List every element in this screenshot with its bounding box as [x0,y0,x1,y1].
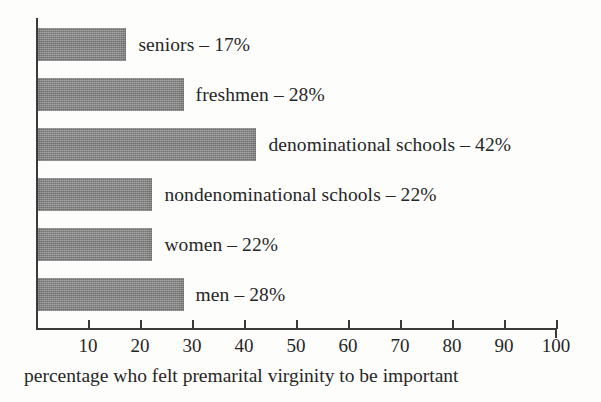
x-axis-tick-80 [452,320,454,329]
plot-area: seniors – 17% freshmen – 28% denominatio… [0,0,601,340]
x-axis-tick-60 [348,320,350,329]
x-axis-tick-label-100: 100 [542,336,571,355]
x-axis-tick-40 [244,320,246,329]
x-axis-tick-label-20: 20 [131,336,150,355]
bar-nondenominational-schools [38,178,152,211]
x-axis-tick-label-50: 50 [287,336,306,355]
bar-label-men: men – 28% [184,285,286,305]
x-axis-tick-100 [556,320,558,329]
x-axis-tick-70 [400,320,402,329]
x-axis-tick-50 [296,320,298,329]
bar-row-denominational-schools: denominational schools – 42% [38,128,511,161]
chart-caption: percentage who felt premarital virginity… [24,366,458,386]
bar-label-seniors: seniors – 17% [126,35,250,55]
bar-row-men: men – 28% [38,278,285,311]
x-axis-tick-label-60: 60 [339,336,358,355]
x-axis-tick-label-70: 70 [391,336,410,355]
bar-label-denominational-schools: denominational schools – 42% [256,135,511,155]
x-axis-tick-label-90: 90 [495,336,514,355]
x-axis-tick-30 [192,320,194,329]
x-axis-end-cap [555,330,557,338]
x-axis-tick-10 [88,320,90,329]
bar-label-freshmen: freshmen – 28% [184,85,325,105]
bar-label-nondenominational-schools: nondenominational schools – 22% [152,185,436,205]
bar-label-women: women – 22% [152,235,278,255]
bar-women [38,228,152,261]
x-axis-tick-20 [140,320,142,329]
x-axis-tick-90 [504,320,506,329]
bar-chart-figure: seniors – 17% freshmen – 28% denominatio… [0,0,601,402]
x-axis-tick-label-40: 40 [235,336,254,355]
bar-men [38,278,184,311]
bar-row-nondenominational-schools: nondenominational schools – 22% [38,178,437,211]
bar-freshmen [38,78,184,111]
bar-row-freshmen: freshmen – 28% [38,78,325,111]
x-axis-tick-label-80: 80 [443,336,462,355]
bar-row-women: women – 22% [38,228,278,261]
x-axis-tick-label-30: 30 [183,336,202,355]
bar-seniors [38,28,126,61]
bar-denominational-schools [38,128,256,161]
bar-row-seniors: seniors – 17% [38,28,250,61]
x-axis-tick-label-10: 10 [79,336,98,355]
